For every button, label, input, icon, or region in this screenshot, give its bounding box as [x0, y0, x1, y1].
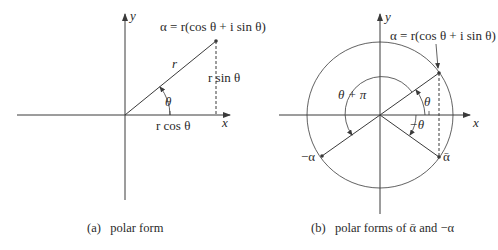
y-axis-label: y: [128, 8, 136, 23]
conjugate-label: ᾱ: [443, 149, 450, 164]
point-alpha-label: α = r(cos θ + i sin θ): [160, 19, 266, 34]
caption-a: (a) polar form: [87, 221, 164, 235]
caption-b: (b) polar forms of ᾱ and −α: [311, 221, 454, 235]
vertical-label: r sin θ: [208, 70, 240, 85]
alpha-pointer-arrow: [436, 44, 438, 68]
point-negative: [320, 154, 324, 158]
neg-theta-label: −θ: [409, 117, 425, 132]
negative-label: −α: [301, 149, 315, 164]
horizontal-label: r cos θ: [156, 118, 190, 133]
point-alpha: [437, 71, 441, 75]
point-alpha: [214, 39, 218, 43]
point-alpha-label: α = r(cos θ + i sin θ): [390, 28, 496, 43]
x-axis-label: x: [221, 115, 228, 130]
radius-label: r: [172, 56, 178, 71]
polar-form-figure: y x α = r(cos θ + i sin θ) r r sin θ θ r…: [0, 0, 498, 250]
x-axis-label: x: [472, 115, 479, 130]
theta-pi-label: θ + π: [338, 87, 367, 102]
point-conjugate: [437, 155, 441, 159]
negative-line: [322, 115, 380, 156]
angle-label: θ: [165, 94, 172, 109]
figure-a-polar-form: y x α = r(cos θ + i sin θ) r r sin θ θ r…: [17, 8, 266, 200]
y-axis-label: y: [383, 9, 391, 24]
theta-pi-arc: [345, 77, 412, 135]
theta-label: θ: [424, 94, 431, 109]
figure-b-polar-forms: y x α = r(cos θ + i sin θ) θ −θ θ + π ᾱ …: [279, 9, 496, 214]
